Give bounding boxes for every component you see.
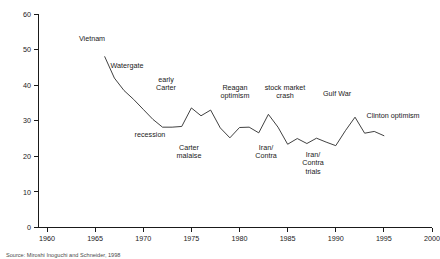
annotation-iran-contra-trials: Iran/Contratrials xyxy=(302,150,324,176)
line-chart: 0102030405060 19601965197019751980198519… xyxy=(0,0,440,259)
y-axis-tick-label: 0 xyxy=(27,223,31,232)
annotation-line: recession xyxy=(135,130,166,139)
annotation-gulf-war: Gulf War xyxy=(323,89,352,98)
x-axis-tick-label: 1980 xyxy=(232,234,248,243)
source-note: Source: Miroshi Inoguchi and Schneider, … xyxy=(6,252,120,259)
annotation-line: Carter xyxy=(156,83,177,92)
annotation-line: Vietnam xyxy=(79,34,105,43)
annotation-reagan-optimism: Reaganoptimism xyxy=(221,83,250,100)
y-axis-tick-label: 20 xyxy=(23,152,31,161)
x-axis-tick-label: 1975 xyxy=(183,234,199,243)
x-axis-tick-label: 1970 xyxy=(135,234,151,243)
annotations-group: VietnamWatergateearlyCarterrecessionCart… xyxy=(79,34,420,176)
annotation-stock-market-crash: stock marketcrash xyxy=(265,83,306,100)
annotation-line: optimism xyxy=(221,91,250,100)
annotation-iran-contra: Iran/Contra xyxy=(255,143,277,160)
x-axis-tick-label: 2000 xyxy=(424,234,440,243)
annotation-carter-malaise: Cartermalaise xyxy=(177,143,202,160)
chart-container: 0102030405060 19601965197019751980198519… xyxy=(0,0,440,259)
annotation-watergate: Watergate xyxy=(111,61,144,70)
y-axis-tick-label: 10 xyxy=(23,188,31,197)
annotation-line: malaise xyxy=(177,151,202,160)
annotation-vietnam: Vietnam xyxy=(79,34,105,43)
x-axis-tick-label: 1960 xyxy=(39,234,55,243)
y-axis-tick-label: 50 xyxy=(23,45,31,54)
y-axis-ticks: 0102030405060 xyxy=(23,10,39,233)
annotation-clinton-optimism: Clinton optimism xyxy=(366,111,419,120)
x-axis-tick-label: 1990 xyxy=(328,234,344,243)
annotation-line: Gulf War xyxy=(323,89,352,98)
y-axis-tick-label: 30 xyxy=(23,116,31,125)
x-axis-tick-label: 1985 xyxy=(280,234,296,243)
annotation-recession: recession xyxy=(135,130,166,139)
y-axis-tick-label: 40 xyxy=(23,81,31,90)
annotation-line: trials xyxy=(305,167,321,176)
x-axis-tick-label: 1995 xyxy=(376,234,392,243)
annotation-line: crash xyxy=(276,91,294,100)
annotation-line: Contra xyxy=(255,151,277,160)
annotation-early-carter: earlyCarter xyxy=(156,75,177,92)
x-axis-tick-label: 1965 xyxy=(87,234,103,243)
y-axis-tick-label: 60 xyxy=(23,10,31,19)
annotation-line: Clinton optimism xyxy=(366,111,419,120)
x-axis-ticks: 196019651970197519801985199019952000 xyxy=(39,228,440,244)
annotation-line: Watergate xyxy=(111,61,144,70)
